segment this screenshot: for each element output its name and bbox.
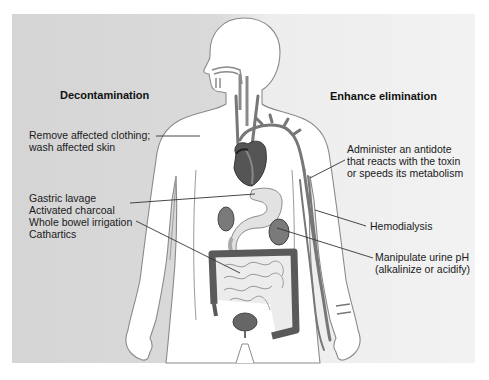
label-gi-decontamination: Gastric lavage Activated charcoal Whole … bbox=[29, 192, 132, 240]
label-remove-clothing: Remove affected clothing; wash affected … bbox=[29, 129, 150, 153]
enhance-elimination-heading: Enhance elimination bbox=[330, 90, 437, 102]
label-hemodialysis: Hemodialysis bbox=[370, 220, 432, 232]
label-antidote: Administer an antidote that reacts with … bbox=[347, 143, 463, 179]
label-urine-ph: Manipulate urine pH (alkalinize or acidi… bbox=[375, 251, 470, 275]
decontamination-heading: Decontamination bbox=[60, 89, 149, 101]
toxicology-diagram: Decontamination Enhance elimination Remo… bbox=[0, 0, 489, 380]
body-illustration bbox=[0, 0, 489, 380]
